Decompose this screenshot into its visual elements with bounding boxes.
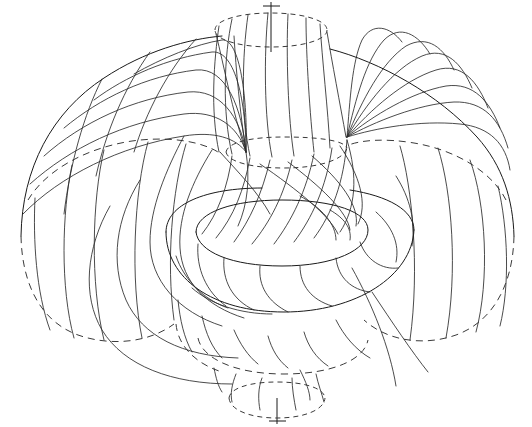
torus-line-diagram — [0, 0, 532, 427]
figure-background — [0, 0, 532, 427]
figure-root — [0, 0, 532, 427]
